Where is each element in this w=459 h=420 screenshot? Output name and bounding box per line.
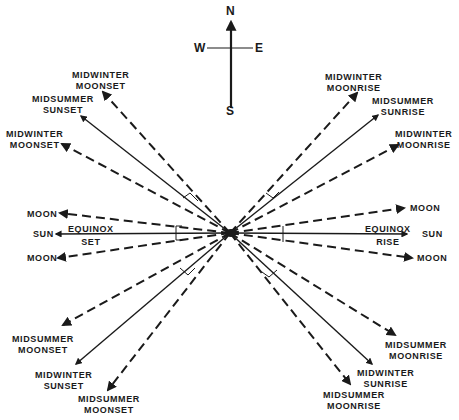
label-midwinter-moonrise-near: MIDWINTERMOONRISE <box>395 129 452 151</box>
label-equinox-set: EQUINOXSET <box>68 223 114 249</box>
compass-west-label: W <box>194 41 205 55</box>
ray-midsummer-moonset-far <box>108 233 230 390</box>
label-moon-east-north: MOON <box>410 203 440 214</box>
ray-midwinter-moonset-far <box>103 92 230 233</box>
compass-south-label: S <box>226 104 234 118</box>
label-midsummer-sunrise: MIDSUMMERSUNRISE <box>372 96 434 118</box>
ray-midsummer-moonrise-far <box>230 233 350 384</box>
ray-midsummer-sunset <box>81 116 230 233</box>
label-midwinter-moonrise-far: MIDWINTERMOONRISE <box>325 72 382 94</box>
label-midwinter-moonset-near: MIDWINTERMOONSET <box>6 129 63 151</box>
label-midwinter-sunset: MIDWINTERSUNSET <box>35 370 92 392</box>
label-midsummer-moonset-far: MIDSUMMERMOONSET <box>78 394 140 416</box>
label-moon-east-south: MOON <box>417 253 447 264</box>
label-sun-west: SUN <box>33 229 54 240</box>
ray-midwinter-moonrise-far <box>230 93 357 233</box>
label-midsummer-moonset-near: MIDSUMMERMOONSET <box>12 334 74 356</box>
label-midwinter-sunrise: MIDWINTERSUNRISE <box>357 368 414 390</box>
label-sun-east: SUN <box>422 229 443 240</box>
ray-midwinter-moonrise-near <box>230 145 398 233</box>
label-midsummer-sunset: MIDSUMMERSUNSET <box>32 94 94 116</box>
angle-marker-nw <box>183 193 198 201</box>
compass-east-label: E <box>255 41 263 55</box>
label-midwinter-moonset-far: MIDWINTERMOONSET <box>72 70 129 92</box>
label-midsummer-moonrise-near: MIDSUMMERMOONRISE <box>385 340 447 362</box>
label-moon-west-north: MOON <box>27 209 57 220</box>
observer-point <box>225 229 237 237</box>
label-equinox-rise: EQUINOXRISE <box>365 223 411 249</box>
ray-midwinter-moonset-near <box>62 144 230 233</box>
compass-rose <box>207 22 253 108</box>
ray-midwinter-sunrise <box>230 233 372 364</box>
label-midsummer-moonrise-far: MIDSUMMERMOONRISE <box>323 390 385 412</box>
label-moon-west-south: MOON <box>27 253 57 264</box>
compass-north-label: N <box>226 4 235 18</box>
